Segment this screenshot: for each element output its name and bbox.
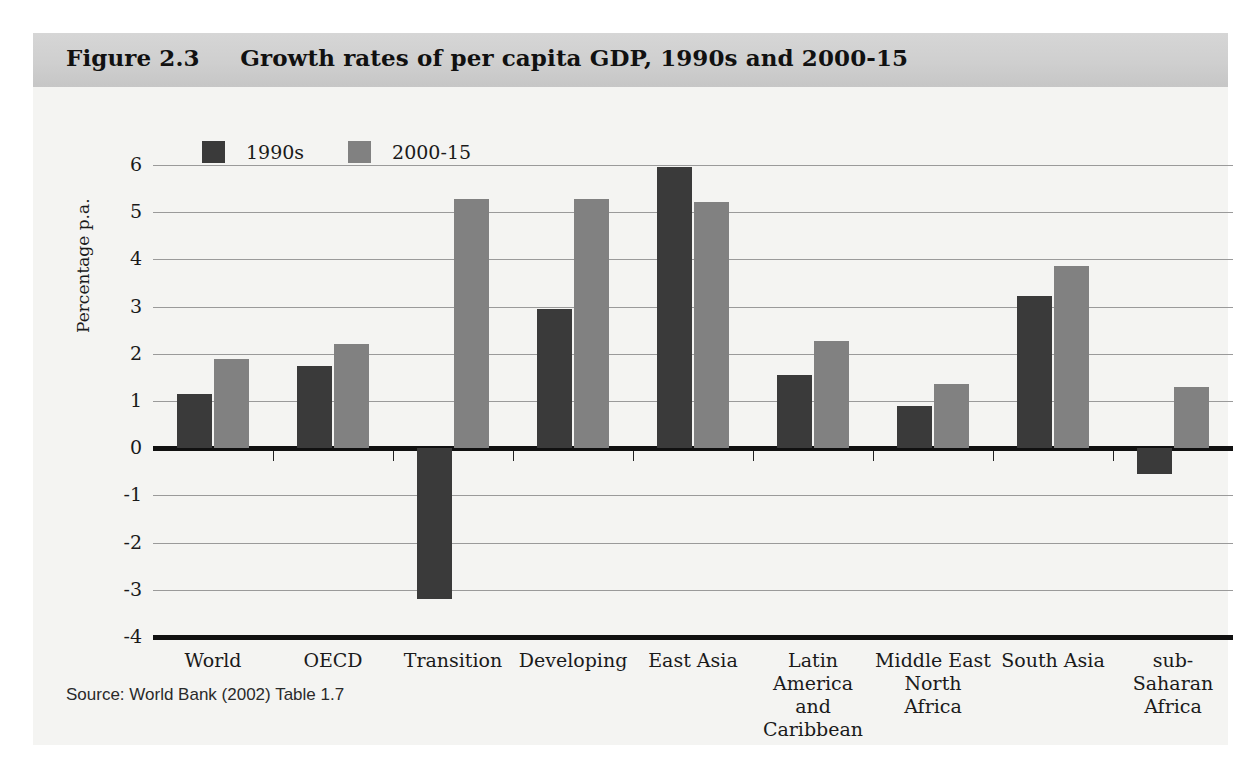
y-axis-tick-label: 4 (102, 247, 142, 269)
bar-group (1113, 165, 1233, 637)
y-axis-tick-label: 2 (102, 342, 142, 364)
x-axis-tick (513, 451, 514, 461)
legend-label: 2000-15 (392, 141, 471, 163)
bar-group (993, 165, 1113, 637)
bar-group (873, 165, 993, 637)
bar-2000-15 (454, 199, 489, 448)
x-axis-category-label: OECD (273, 649, 393, 672)
bar-2000-15 (214, 359, 249, 449)
x-axis-tick (273, 451, 274, 461)
figure-source: Source: World Bank (2002) Table 1.7 (66, 685, 344, 705)
x-axis-tick (393, 451, 394, 461)
x-axis-category-label: sub-Saharan Africa (1113, 649, 1233, 718)
y-axis-tick-label: 0 (102, 436, 142, 458)
bar-group (153, 165, 273, 637)
bar-group (393, 165, 513, 637)
x-axis-tick (1113, 451, 1114, 461)
y-axis-tick-label: -1 (102, 483, 142, 505)
figure-container: Figure 2.3 Growth rates of per capita GD… (33, 33, 1228, 745)
x-axis-category-label: South Asia (993, 649, 1113, 672)
bar-2000-15 (694, 202, 729, 448)
bar-1990s (417, 448, 452, 599)
legend-swatch-icon (348, 141, 371, 163)
bar-2000-15 (574, 199, 609, 448)
x-axis-category-label: World (153, 649, 273, 672)
y-axis-label: Percentage p.a. (73, 198, 93, 333)
y-axis-tick-label: 3 (102, 295, 142, 317)
y-axis-tick-label: 1 (102, 389, 142, 411)
x-axis-category-label: Latin America and Caribbean (753, 649, 873, 741)
bar-2000-15 (814, 341, 849, 448)
figure-title: Figure 2.3 Growth rates of per capita GD… (66, 44, 908, 71)
x-axis-tick (993, 451, 994, 461)
x-axis-category-label: Transition (393, 649, 513, 672)
bar-2000-15 (334, 344, 369, 448)
legend-label: 1990s (246, 141, 304, 163)
x-axis-tick (633, 451, 634, 461)
bar-1990s (1017, 296, 1052, 448)
y-axis-tick-label: 5 (102, 200, 142, 222)
bar-group (513, 165, 633, 637)
bar-1990s (177, 394, 212, 448)
y-axis-tick-label: -4 (102, 625, 142, 647)
bar-1990s (1137, 448, 1172, 474)
x-axis-tick (753, 451, 754, 461)
bar-2000-15 (1174, 387, 1209, 448)
bar-1990s (297, 366, 332, 449)
bar-1990s (657, 167, 692, 448)
y-axis-tick-label: 6 (102, 153, 142, 175)
chart-plot-area: Percentage p.a. 6543210-1-2-3-4WorldOECD… (120, 165, 1200, 637)
bar-1990s (777, 375, 812, 448)
chart-legend: 1990s2000-15 (202, 141, 515, 163)
x-axis-tick (873, 451, 874, 461)
y-axis-tick-label: -3 (102, 578, 142, 600)
bar-2000-15 (934, 384, 969, 448)
bar-group (753, 165, 873, 637)
bar-group (273, 165, 393, 637)
x-axis-category-label: East Asia (633, 649, 753, 672)
legend-item-2: 2000-15 (348, 141, 471, 163)
legend-swatch-icon (202, 141, 225, 163)
bar-2000-15 (1054, 266, 1089, 448)
x-axis-category-label: Developing (513, 649, 633, 672)
y-axis-tick-label: -2 (102, 531, 142, 553)
bar-group (633, 165, 753, 637)
x-axis-category-label: Middle East North Africa (873, 649, 993, 718)
bar-1990s (897, 406, 932, 448)
bar-1990s (537, 309, 572, 448)
legend-item-1: 1990s (202, 141, 304, 163)
plot-inner: 6543210-1-2-3-4WorldOECDTransitionDevelo… (153, 165, 1233, 637)
